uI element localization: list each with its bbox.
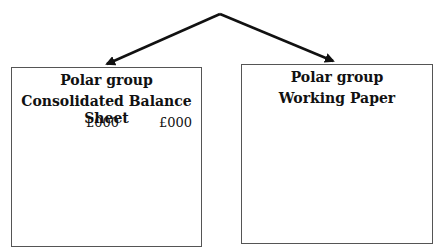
working-paper-title-line2: Working Paper <box>242 90 432 107</box>
consolidated-balance-sheet-box: Polar group Consolidated Balance Sheet £… <box>11 67 202 247</box>
working-paper-title-line1: Polar group <box>242 69 432 86</box>
column-header-2: £000 <box>159 115 192 130</box>
arrow-to-working-paper <box>220 14 333 61</box>
balance-sheet-title-line1: Polar group <box>12 72 201 89</box>
arrow-to-balance-sheet <box>107 14 220 64</box>
column-header-1: £000 <box>86 115 119 130</box>
working-paper-box: Polar group Working Paper <box>241 64 433 244</box>
